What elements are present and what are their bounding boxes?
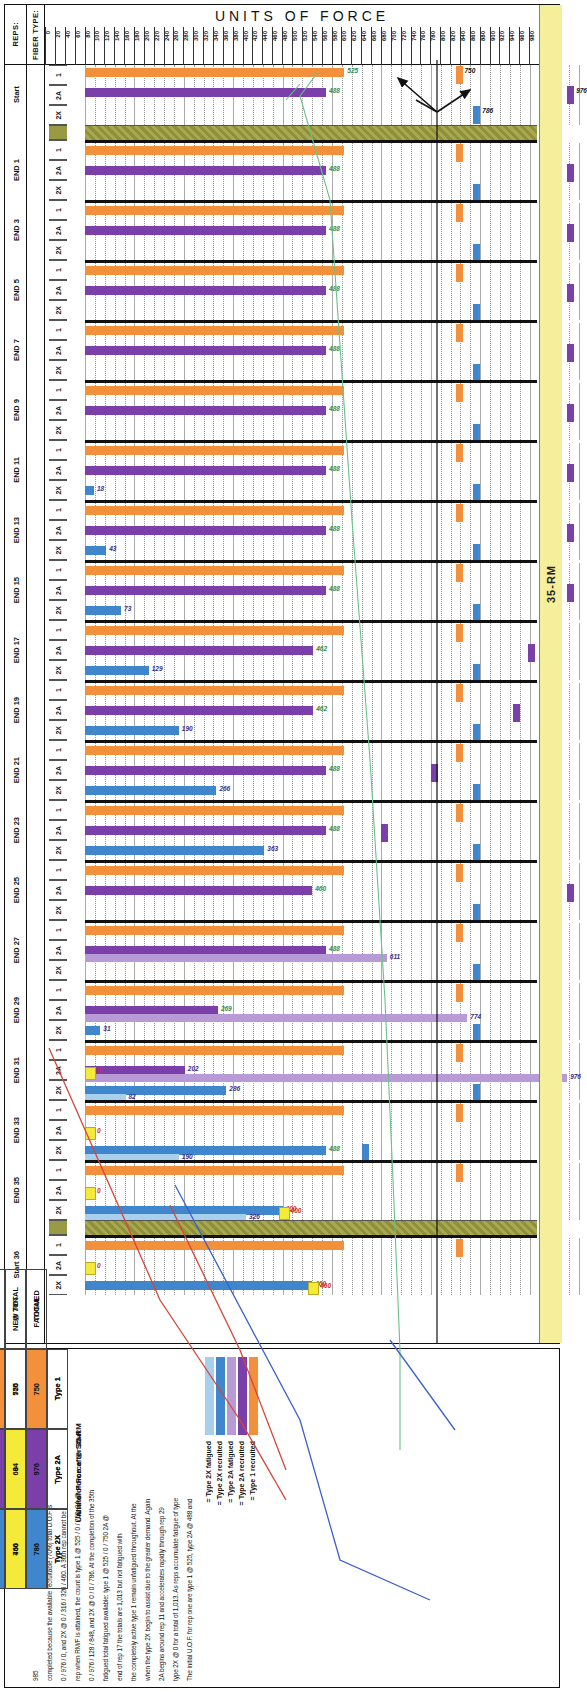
gridline	[500, 503, 501, 560]
x-tick-label: 120	[104, 31, 110, 41]
table-row-header: TOTAL	[26, 1269, 47, 1349]
x-tick: 20	[55, 27, 65, 65]
gridline	[470, 323, 471, 380]
rm-band: 35-RM	[539, 5, 562, 1343]
x-tick: 140	[114, 27, 124, 65]
chart-row: 26977431	[85, 980, 537, 1040]
gridline	[362, 443, 363, 500]
gridline	[421, 1043, 422, 1100]
table-cell-text: 525	[11, 1383, 20, 1396]
gridline	[520, 503, 521, 560]
bar-type-2a-recruited	[85, 286, 326, 295]
gridline	[451, 383, 452, 440]
gridline	[391, 1043, 392, 1100]
rep-row-label: END 21	[5, 740, 27, 800]
table-cell: 525	[5, 1349, 26, 1429]
bar-value-label: 460	[315, 885, 326, 892]
paragraph-line: type 2X @ 0 for a total of 1,013. As rep…	[173, 1355, 180, 1681]
gridline	[431, 203, 432, 260]
gridline	[352, 743, 353, 800]
chart-row: 48843	[85, 500, 537, 560]
bar-value-label: 488	[329, 945, 340, 952]
gridline	[470, 1043, 471, 1100]
highlight-mark	[85, 1187, 96, 1200]
x-tick: 160	[124, 27, 134, 65]
force-chart: REPS: StartEND 1END 3END 5END 7END 9END …	[4, 4, 560, 1344]
x-tick: 880	[480, 27, 490, 65]
gridline	[470, 383, 471, 440]
table-cell: 976	[26, 1429, 47, 1509]
gridline	[470, 203, 471, 260]
gridline	[381, 1103, 382, 1160]
chart-row: 488363	[85, 800, 537, 860]
segment-marker	[456, 804, 463, 822]
gridline	[381, 443, 382, 500]
gridline	[421, 263, 422, 320]
segment-marker	[431, 764, 438, 782]
gridline	[411, 923, 412, 980]
x-tick-label: 200	[144, 31, 150, 41]
rep-row-label-text: END 27	[12, 937, 21, 963]
bar-value-label: 774	[470, 1013, 481, 1020]
x-tick-label: 260	[173, 31, 179, 41]
x-tick-label: 880	[480, 31, 486, 41]
segment-marker	[456, 444, 463, 462]
gridline	[431, 263, 432, 320]
gridline	[362, 743, 363, 800]
gridline	[451, 323, 452, 380]
bar-value-label: 488	[329, 585, 340, 592]
gridline	[362, 503, 363, 560]
fiber-type-column: FIBER TYPE: 12A2X12A2X12A2X12A2X12A2X12A…	[27, 5, 45, 1343]
gridline	[451, 1238, 452, 1295]
x-tick-label: 40	[65, 31, 71, 38]
rep-row-label-text: END 1	[12, 159, 21, 181]
gridline	[480, 1103, 481, 1160]
x-tick-label: 700	[391, 31, 397, 41]
gridline	[569, 923, 570, 980]
gridline	[391, 563, 392, 620]
x-tick: 660	[371, 27, 381, 65]
chart-row: 488	[85, 200, 537, 260]
segment-marker	[567, 884, 574, 902]
gridline	[411, 1238, 412, 1295]
bar-type-1-recruited	[85, 686, 344, 695]
reps-header: REPS:	[5, 5, 26, 65]
gridline	[401, 983, 402, 1040]
x-tick-label: 300	[193, 31, 199, 41]
gridline	[441, 983, 442, 1040]
segment-marker	[456, 1239, 463, 1257]
gridline	[520, 143, 521, 200]
gridline	[500, 443, 501, 500]
gridline	[470, 563, 471, 620]
x-tick-label: 240	[164, 31, 170, 41]
bar-value-label: 488	[329, 345, 340, 352]
table-cell: 766	[5, 1509, 26, 1589]
gridline	[381, 203, 382, 260]
gridline	[520, 863, 521, 920]
gridline	[381, 1043, 382, 1100]
gridline	[569, 743, 570, 800]
bar-value-label: 269	[221, 1005, 232, 1012]
x-tick: 240	[164, 27, 174, 65]
gridline	[411, 623, 412, 680]
gridline	[500, 983, 501, 1040]
rep-row-label: END 19	[5, 680, 27, 740]
segment-marker	[473, 106, 480, 124]
gridline	[372, 803, 373, 860]
bar-value-label: 611	[390, 953, 400, 960]
rep-row-label-text: END 11	[12, 457, 21, 483]
x-tick: 500	[292, 27, 302, 65]
gridline	[520, 923, 521, 980]
x-tick-label: 420	[252, 31, 258, 41]
olive-separator-pad	[5, 1220, 27, 1235]
gridline	[362, 1043, 363, 1100]
bar-value-label: 525	[347, 67, 358, 74]
gridline	[451, 443, 452, 500]
gridline	[352, 503, 353, 560]
x-tick: 260	[173, 27, 183, 65]
bar-value-label: 488	[329, 405, 340, 412]
gridline	[451, 563, 452, 620]
gridline	[391, 683, 392, 740]
gridline	[421, 803, 422, 860]
rep-row-label-text: END 25	[12, 877, 21, 903]
